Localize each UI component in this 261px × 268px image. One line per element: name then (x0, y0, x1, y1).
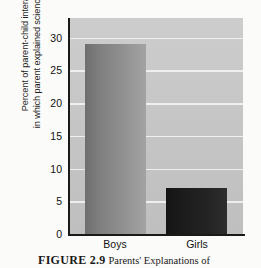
bar-girls (166, 188, 227, 234)
gridline-30 (70, 38, 243, 40)
x-axis-line (68, 234, 245, 236)
figure-caption-text: Parents' Explanations of (108, 255, 210, 266)
bar-boys (85, 44, 146, 234)
y-tick-label-5: 5 (56, 195, 62, 207)
y-tick-label-25: 25 (50, 64, 62, 76)
y-axis-tick-labels: 0 5 10 15 20 25 30 (38, 18, 62, 235)
y-tick-label-30: 30 (50, 32, 62, 44)
y-tick-label-10: 10 (50, 163, 62, 175)
figure-caption: FIGURE 2.9 Parents' Explanations of (38, 254, 261, 267)
plot-area (70, 18, 243, 234)
x-tick-label-boys: Boys (103, 238, 126, 250)
y-axis-title-line-1: Percent of parent-child interactions (20, 0, 31, 111)
figure-container: Percent of parent-child interactions in … (0, 0, 261, 268)
y-axis-line (68, 18, 70, 236)
x-axis-tick-labels: Boys Girls (70, 238, 243, 252)
y-tick-label-15: 15 (50, 130, 62, 142)
x-tick-label-girls: Girls (186, 238, 208, 250)
y-tick-label-20: 20 (50, 97, 62, 109)
y-tick-label-0: 0 (56, 228, 62, 240)
figure-caption-label: FIGURE 2.9 (38, 254, 106, 267)
